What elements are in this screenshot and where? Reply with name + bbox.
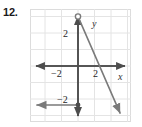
x-tick-label-negative-2: −2	[51, 69, 62, 79]
y-tick-label-negative-2: −2	[57, 95, 68, 105]
plot-area	[30, 9, 131, 122]
y-axis-label: y	[92, 19, 96, 29]
closed-circle-endpoint	[76, 103, 81, 108]
problem-number-label: 12.	[3, 7, 18, 18]
open-circle-endpoint	[75, 14, 80, 19]
series-steep-negative-segment	[78, 17, 120, 114]
x-axis-label: x	[118, 72, 122, 82]
figure-container: 12.	[0, 0, 142, 127]
x-tick-label-positive-2: 2	[93, 69, 98, 79]
y-tick-label-positive-2: 2	[63, 29, 68, 39]
coordinate-plane-figure: y x −2 2 2 −2	[30, 9, 131, 122]
